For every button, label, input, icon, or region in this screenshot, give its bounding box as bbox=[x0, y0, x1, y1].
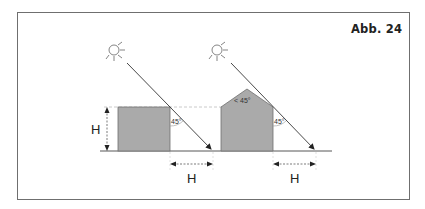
flat-roof-building bbox=[118, 107, 170, 151]
right-scene: < 45° 45° H bbox=[209, 42, 316, 186]
distance-label: H bbox=[187, 171, 196, 186]
sun-icon bbox=[209, 42, 228, 61]
angle-label: 45° bbox=[274, 118, 285, 125]
shadow-distance-diagram: 45° H H < 45° 45° bbox=[0, 0, 425, 209]
distance-label: H bbox=[290, 171, 299, 186]
sun-icon bbox=[106, 42, 125, 61]
angle-label: 45° bbox=[171, 118, 182, 125]
roof-angle-label: < 45° bbox=[234, 97, 251, 104]
left-scene: 45° H H bbox=[91, 42, 213, 186]
height-label: H bbox=[91, 122, 100, 137]
